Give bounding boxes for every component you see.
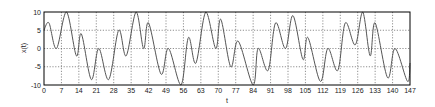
y-tick-labels: -10-50510 (31, 9, 41, 89)
y-tick-label: 5 (37, 27, 41, 34)
x-tick-label: 35 (127, 87, 135, 94)
x-tick-label: 98 (284, 87, 292, 94)
x-tick-label: 91 (267, 87, 275, 94)
x-tick-label: 14 (75, 87, 83, 94)
y-tick-label: -5 (35, 63, 41, 70)
y-tick-label: 10 (33, 9, 41, 16)
y-axis-label: x(t) (20, 43, 28, 53)
x-tick-label: 0 (42, 87, 46, 94)
x-tick-label: 42 (145, 87, 153, 94)
x-tick-label: 105 (300, 87, 312, 94)
x-tick-label: 77 (232, 87, 240, 94)
x-axis-label: t (226, 97, 228, 104)
x-tick-label: 140 (387, 87, 399, 94)
x-tick-label: 126 (352, 87, 364, 94)
y-tick-label: -10 (31, 82, 41, 89)
x-tick-labels: 0714212835424956637077849198105112119126… (42, 87, 416, 94)
x-tick-label: 112 (317, 87, 328, 94)
x-tick-label: 28 (110, 87, 118, 94)
x-tick-label: 147 (404, 87, 416, 94)
x-tick-label: 119 (335, 87, 346, 94)
x-tick-label: 56 (180, 87, 188, 94)
x-tick-label: 49 (162, 87, 170, 94)
x-tick-label: 7 (59, 87, 63, 94)
x-tick-label: 133 (369, 87, 381, 94)
x-tick-label: 70 (214, 87, 222, 94)
line-chart: 0714212835424956637077849198105112119126… (0, 0, 435, 107)
x-tick-label: 63 (197, 87, 205, 94)
x-tick-label: 84 (249, 87, 257, 94)
x-tick-label: 21 (92, 87, 100, 94)
y-tick-label: 0 (37, 45, 41, 52)
